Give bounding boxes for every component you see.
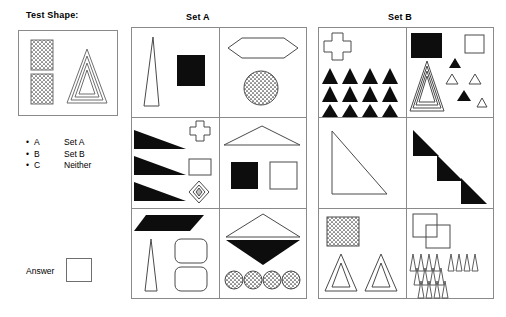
black-right-triangle	[437, 155, 463, 181]
worksheet-page: Test Shape: • A Set A • B Set B • C	[0, 0, 506, 317]
legend-value-c: Neither	[64, 160, 91, 172]
white-small-triangle	[469, 74, 481, 84]
rounded-rect-outline	[175, 267, 207, 291]
stippled-circle	[263, 271, 281, 289]
bullet-icon: •	[26, 160, 29, 172]
thin-tall-triangle-outline	[144, 37, 159, 106]
stippled-rectangle-upper	[31, 40, 53, 70]
set-b-cell-1	[319, 28, 406, 117]
answer-input[interactable]	[66, 258, 92, 282]
stippled-circle	[244, 71, 278, 105]
thin-tall-triangle-outline	[145, 239, 157, 291]
black-triangle-grid-12	[322, 68, 398, 117]
square-outline	[189, 159, 211, 175]
square-outline	[270, 162, 297, 189]
test-shape-title: Test Shape:	[26, 10, 79, 20]
black-square	[177, 55, 205, 86]
bullet-icon: •	[26, 137, 29, 149]
wide-flat-triangle-outline	[224, 126, 300, 145]
overlapping-squares-outline	[413, 214, 450, 248]
set-a-cell-5	[132, 209, 219, 298]
white-small-triangle	[477, 98, 487, 107]
right-triangle-outline	[332, 131, 387, 194]
test-shape-figure	[19, 31, 117, 115]
nested-triangle	[325, 254, 357, 291]
set-a-cell-1	[132, 28, 219, 117]
nested-triangle	[365, 254, 397, 291]
bullet-icon: •	[26, 149, 29, 161]
black-triangle-wedge	[134, 182, 186, 201]
cross-outline	[190, 121, 210, 141]
white-small-triangle	[446, 74, 458, 84]
black-triangle-down	[226, 240, 300, 265]
set-b-title: Set B	[388, 12, 412, 22]
stippled-square	[327, 217, 359, 246]
black-right-triangle	[413, 130, 439, 156]
set-b-cell-6	[407, 209, 493, 298]
test-shape-box	[18, 30, 118, 116]
set-a-title: Set A	[186, 12, 210, 22]
set-a-cell-4	[220, 118, 306, 208]
cross-outline	[324, 33, 351, 60]
black-small-triangle	[457, 90, 471, 101]
stippled-circle	[244, 271, 262, 289]
black-parallelogram	[134, 215, 204, 231]
diamond-nested	[189, 181, 209, 203]
narrow-triangle-cluster	[410, 254, 478, 298]
answer-label: Answer	[26, 266, 54, 276]
black-small-triangle	[449, 58, 461, 68]
black-triangle-wedge	[134, 156, 186, 175]
set-a-cell-2	[220, 28, 306, 117]
set-b-cell-4	[407, 118, 493, 208]
nested-triangle	[410, 61, 444, 111]
set-b-cell-3	[319, 118, 406, 208]
set-a-box	[131, 27, 307, 299]
stippled-circle	[225, 271, 243, 289]
legend-key-a: A	[34, 137, 40, 149]
set-a-cell-3	[132, 118, 219, 208]
set-b-cell-5	[319, 209, 406, 298]
legend-key-b: B	[34, 149, 40, 161]
black-square	[231, 162, 258, 189]
elongated-hexagon-outline	[228, 38, 298, 58]
set-b-box	[318, 27, 494, 299]
legend-value-b: Set B	[64, 149, 85, 161]
stippled-circle	[282, 271, 300, 289]
stippled-rectangle-lower	[31, 74, 53, 104]
set-a-cell-6	[220, 209, 306, 298]
square-outline	[465, 35, 484, 53]
legend-key-c: C	[34, 160, 40, 172]
white-triangle-up-outline	[226, 214, 300, 237]
nested-triangle	[67, 49, 107, 103]
black-triangle-wedge	[134, 130, 186, 149]
black-right-triangle	[461, 178, 487, 204]
set-b-cell-2	[407, 28, 493, 117]
legend-value-a: Set A	[64, 137, 84, 149]
black-square	[411, 33, 442, 58]
rounded-rect-outline	[175, 239, 207, 263]
